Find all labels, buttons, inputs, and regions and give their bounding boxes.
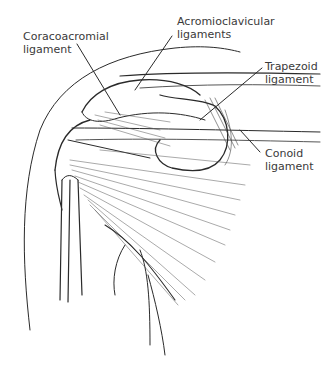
label-line: ligament xyxy=(265,73,318,86)
biceps-tendon xyxy=(60,180,82,302)
acromion xyxy=(82,80,200,112)
label-line: Coracoacromial xyxy=(23,30,109,43)
humeral-head xyxy=(55,120,90,170)
label-acromioclavicular-ligaments: Acromioclavicular ligaments xyxy=(177,15,275,41)
label-line: ligament xyxy=(265,160,314,173)
label-line: Conoid xyxy=(265,147,314,160)
label-coracoacromial-ligament: Coracoacromial ligament xyxy=(23,30,109,56)
label-line: ligaments xyxy=(177,28,275,41)
label-trapezoid-ligament: Trapezoid ligament xyxy=(265,60,318,86)
label-line: Acromioclavicular xyxy=(177,15,275,28)
leader-trapezoid xyxy=(200,68,262,120)
label-line: ligament xyxy=(23,43,109,56)
label-line: Trapezoid xyxy=(265,60,318,73)
label-conoid-ligament: Conoid ligament xyxy=(265,147,314,173)
joint-capsule-fibers xyxy=(70,150,250,305)
leader-acromioclavicular xyxy=(135,36,172,90)
